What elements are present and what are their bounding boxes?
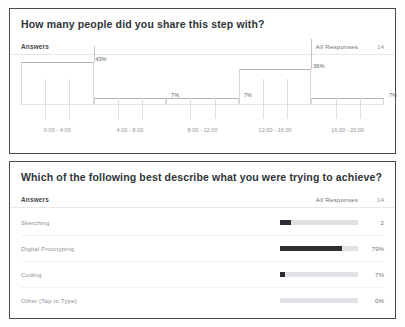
answer-row[interactable]: Coding7% (21, 262, 384, 288)
answer-value: 7% (358, 271, 384, 278)
histogram-axis-label: 0:00 - 4:00 (44, 127, 71, 133)
histogram-gridline (118, 98, 119, 119)
answer-row[interactable]: Digital Prototyping79% (21, 236, 384, 262)
answer-label: Coding (21, 271, 280, 278)
answer-bar-track (280, 272, 358, 277)
histogram-bar: 7% (94, 98, 167, 105)
histogram-gridline (360, 98, 361, 119)
results-header-row: Answers All Responses 14 (10, 43, 395, 55)
all-responses-filter[interactable]: All Responses (316, 196, 358, 203)
response-count: 14 (358, 43, 384, 50)
response-count: 14 (358, 196, 384, 203)
histogram-axis-label: 4:00 - 8:00 (116, 127, 143, 133)
survey-results-page: How many people did you share this step … (0, 0, 405, 327)
histogram-gridline (336, 98, 337, 119)
question-title: Which of the following best describe wha… (10, 162, 395, 183)
histogram-chart: 43%7%7%36%7% 0:00 - 4:004:00 - 8:008:00 … (21, 55, 384, 133)
histogram-gridline (215, 98, 216, 119)
histogram-x-axis: 0:00 - 4:004:00 - 8:008:00 - 12:0012:00 … (21, 120, 384, 133)
answer-label: Other (Tap to Type) (21, 297, 280, 304)
answer-bar-track (280, 298, 358, 303)
histogram-bar: 43% (21, 62, 94, 105)
histogram-gridline (69, 79, 70, 119)
histogram-bar: 7% (166, 98, 239, 105)
histogram-plot-area: 43%7%7%36%7% (21, 55, 384, 119)
histogram-gridline (263, 79, 264, 119)
histogram-bar-value: 36% (313, 63, 324, 69)
histogram-gridline (190, 98, 191, 119)
histogram-peak-line (311, 39, 312, 69)
histogram-bar: 36% (239, 69, 312, 105)
histogram-gridline (45, 79, 46, 119)
answer-label: Digital Prototyping (21, 245, 280, 252)
answer-label: Sketching (21, 219, 280, 226)
answer-row[interactable]: Other (Tap to Type)0% (21, 288, 384, 313)
question-card-describe-achieve: Which of the following best describe wha… (9, 161, 396, 319)
answers-column-header: Answers (21, 43, 49, 50)
all-responses-filter[interactable]: All Responses (316, 43, 358, 50)
answer-bar-track (280, 220, 358, 225)
answer-bar-list: Sketching2Digital Prototyping79%Coding7%… (21, 208, 384, 313)
answer-bar-fill (280, 220, 291, 225)
histogram-bar-value: 7% (171, 92, 179, 98)
answer-bar-fill (280, 272, 285, 277)
question-card-share-step: How many people did you share this step … (9, 8, 396, 154)
question-title: How many people did you share this step … (10, 9, 395, 30)
histogram-bar-value: 43% (95, 56, 106, 62)
histogram-peak-line (94, 46, 95, 62)
histogram-bar: 7% (311, 98, 384, 105)
answer-bar-track (280, 246, 358, 251)
answer-value: 0% (358, 297, 384, 304)
histogram-axis-label: 16:00 - 20:00 (331, 127, 364, 133)
answer-bar-fill (280, 246, 342, 251)
answer-row[interactable]: Sketching2 (21, 210, 384, 236)
answer-value: 2 (358, 219, 384, 226)
histogram-axis-label: 8:00 - 12:00 (188, 127, 218, 133)
histogram-bar-value: 7% (389, 92, 397, 98)
results-header-row: Answers All Responses 14 (10, 196, 395, 208)
histogram-axis-label: 12:00 - 16:00 (259, 127, 292, 133)
answers-column-header: Answers (21, 196, 49, 203)
histogram-gridline (287, 79, 288, 119)
histogram-gridline (142, 98, 143, 119)
answer-value: 79% (358, 245, 384, 252)
